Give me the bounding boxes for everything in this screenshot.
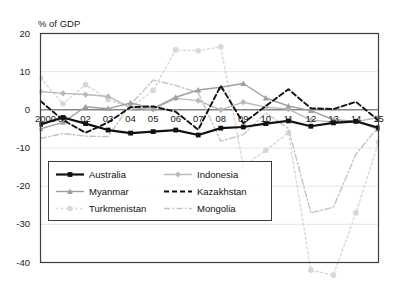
data-point-marker <box>67 206 73 212</box>
data-point-marker <box>263 147 269 153</box>
x-tick-label: 11 <box>280 113 296 124</box>
y-tick-label: -40 <box>4 257 30 268</box>
data-point-marker <box>218 44 224 50</box>
data-point-marker <box>263 95 269 101</box>
data-point-marker <box>331 272 337 278</box>
legend-item-indonesia[interactable]: Indonesia <box>163 169 271 180</box>
x-tick-label: 05 <box>145 113 161 124</box>
data-point-marker <box>308 267 314 273</box>
legend-item-mongolia[interactable]: Mongolia <box>163 203 271 214</box>
y-tick-label: -10 <box>4 142 30 153</box>
legend-item-australia[interactable]: Australia <box>55 169 163 180</box>
plot-area <box>0 0 414 293</box>
legend-label: Kazakhstan <box>197 186 247 197</box>
data-point-marker <box>106 128 111 133</box>
x-tick-label: 14 <box>348 113 364 124</box>
legend-swatch-icon <box>55 169 85 180</box>
chart-legend: AustraliaIndonesiaMyanmarKazakhstanTurkm… <box>48 161 272 221</box>
data-point-marker <box>60 101 66 107</box>
data-point-marker <box>353 210 359 216</box>
x-tick-label: 04 <box>123 113 139 124</box>
legend-swatch-icon <box>55 186 85 197</box>
legend-swatch-icon <box>163 203 193 214</box>
legend-label: Indonesia <box>197 169 238 180</box>
x-tick-label: 10 <box>258 113 274 124</box>
x-tick-label: 12 <box>303 113 319 124</box>
y-tick-label: -20 <box>4 180 30 191</box>
legend-item-turkmenistan[interactable]: Turkmenistan <box>55 203 163 214</box>
data-point-marker <box>309 124 314 129</box>
x-tick-label: 08 <box>213 113 229 124</box>
y-tick-label: -30 <box>4 218 30 229</box>
x-tick-label: 13 <box>325 113 341 124</box>
x-tick-label: 01 <box>55 113 71 124</box>
data-point-marker <box>151 129 156 134</box>
data-point-marker <box>60 90 66 96</box>
data-point-marker <box>240 99 246 105</box>
legend-label: Australia <box>89 169 126 180</box>
legend-label: Turkmenistan <box>89 203 146 214</box>
legend-item-kazakhstan[interactable]: Kazakhstan <box>163 186 271 197</box>
gridlines <box>41 34 379 263</box>
y-tick-label: 0 <box>4 104 30 115</box>
data-point-marker <box>195 48 201 54</box>
x-tick-label: 15 <box>371 113 387 124</box>
y-tick-label: 10 <box>4 66 30 77</box>
y-tick-label: 20 <box>4 28 30 39</box>
legend-swatch-icon <box>163 169 193 180</box>
data-point-marker <box>218 126 223 131</box>
data-point-marker <box>241 125 246 130</box>
data-point-marker <box>83 82 89 88</box>
legend-swatch-icon <box>55 203 85 214</box>
data-point-marker <box>128 131 133 136</box>
data-point-marker <box>82 91 88 97</box>
x-tick-label: 07 <box>190 113 206 124</box>
data-point-marker <box>196 133 201 138</box>
legend-swatch-icon <box>163 186 193 197</box>
data-point-marker <box>175 171 181 177</box>
data-point-marker <box>150 88 156 94</box>
x-tick-label: 09 <box>235 113 251 124</box>
data-point-marker <box>68 172 73 177</box>
legend-item-myanmar[interactable]: Myanmar <box>55 186 163 197</box>
data-point-marker <box>173 47 179 53</box>
chart-container: % of GDP 20100-10-20-30-40 2000010203040… <box>0 0 414 293</box>
x-tick-label: 02 <box>78 113 94 124</box>
x-tick-label: 03 <box>100 113 116 124</box>
legend-label: Mongolia <box>197 203 236 214</box>
legend-label: Myanmar <box>89 186 129 197</box>
data-point-marker <box>173 128 178 133</box>
y-axis-title: % of GDP <box>38 18 80 29</box>
x-tick-label: 06 <box>168 113 184 124</box>
